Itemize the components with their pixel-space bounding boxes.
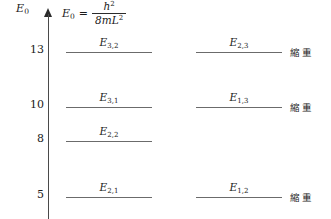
level-10-right-subscript: 1,3 (237, 97, 248, 105)
formula-lhs-symbol: E (62, 7, 70, 20)
formula-denominator-exponent: 2 (119, 14, 123, 22)
level-13-degeneracy-note: 縮重 (290, 45, 314, 59)
axis-tick-13: 13 (2, 43, 44, 56)
level-13-right-bar (196, 52, 282, 53)
axis-tick-10: 10 (2, 98, 44, 111)
level-5-left-state-label: E2,1 (66, 181, 152, 195)
level-5-right-state-label: E1,2 (196, 181, 282, 195)
level-10-right-state-label: E1,3 (196, 91, 282, 105)
level-10-left-subscript: 3,1 (107, 97, 118, 105)
level-8-left-bar (66, 141, 152, 142)
level-8-left-subscript: 2,2 (107, 131, 118, 139)
formula-lhs: E0 (62, 7, 75, 21)
ground-state-energy-formula: E0 = h2 8mL2 (62, 1, 126, 26)
formula-equals: = (78, 7, 89, 20)
formula-lhs-subscript: 0 (70, 12, 75, 21)
level-10-degeneracy-note: 縮重 (290, 100, 314, 114)
level-10-left-bar (66, 107, 152, 108)
level-13-left-state-label: E3,2 (66, 36, 152, 50)
level-13-left-subscript: 3,2 (107, 42, 118, 50)
level-8-left-state-label: E2,2 (66, 125, 152, 139)
formula-numerator-exponent: 2 (110, 0, 114, 8)
axis-tick-5: 5 (2, 188, 44, 201)
formula-fraction: h2 8mL2 (92, 1, 126, 26)
level-13-right-subscript: 2,3 (237, 42, 248, 50)
level-5-degeneracy-note: 縮重 (290, 190, 314, 204)
axis-title-subscript: 0 (24, 7, 29, 16)
level-5-right-bar (196, 197, 282, 198)
axis-title-symbol: E (16, 2, 24, 15)
level-10-right-bar (196, 107, 282, 108)
axis-tick-8: 8 (2, 132, 44, 145)
level-13-right-state-label: E2,3 (196, 36, 282, 50)
formula-denominator-base: 8mL (95, 14, 119, 26)
axis-title: E0 (16, 2, 29, 16)
energy-axis-line (48, 14, 49, 219)
level-5-left-bar (66, 197, 152, 198)
level-10-left-state-label: E3,1 (66, 91, 152, 105)
energy-level-diagram: E0 13 10 8 5 E0 = h2 8mL2 E3,2 E2,3 縮重 E… (0, 0, 331, 219)
formula-denominator: 8mL2 (92, 15, 126, 26)
formula-numerator: h2 (100, 1, 117, 12)
level-5-right-subscript: 1,2 (237, 187, 248, 195)
level-13-left-bar (66, 52, 152, 53)
level-5-left-subscript: 2,1 (107, 187, 118, 195)
